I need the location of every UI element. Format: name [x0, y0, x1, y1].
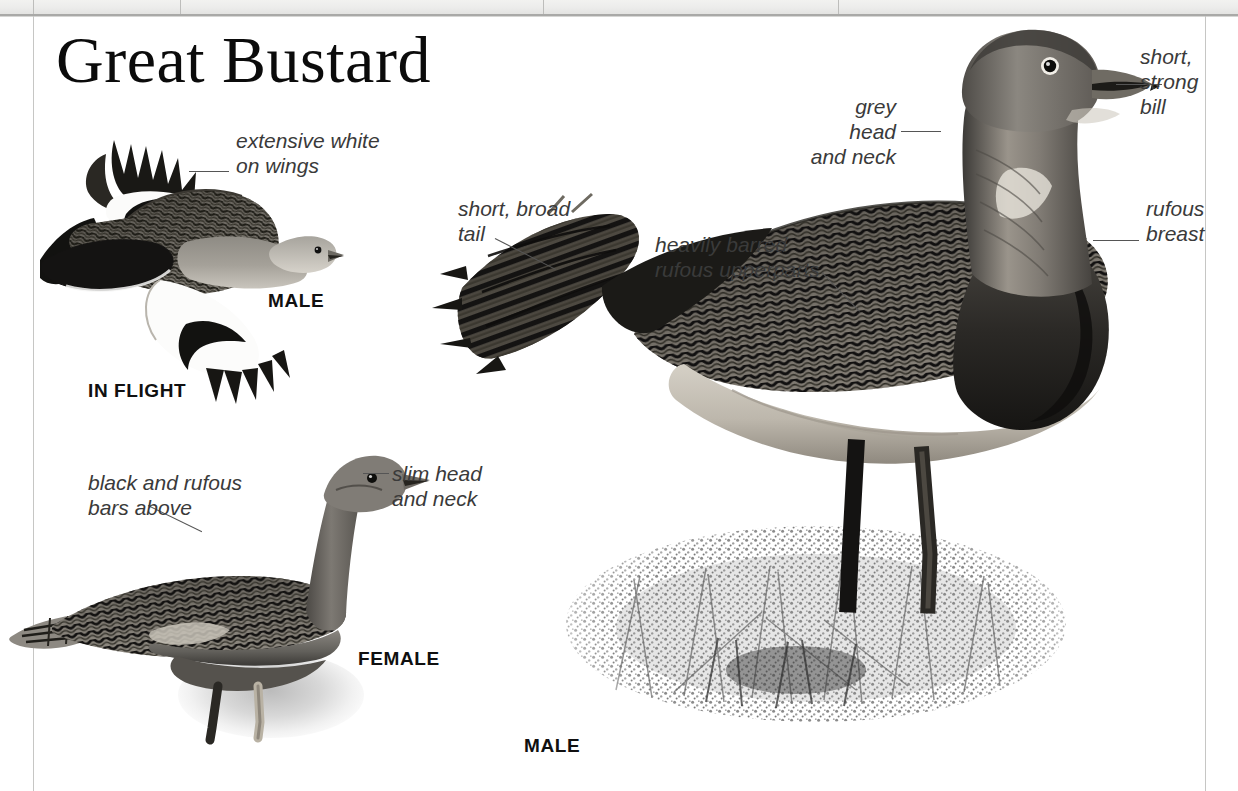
annotation-short-broad-tail: short, broad tail	[458, 196, 570, 246]
annotation-heavily-barred-rufous-upperparts: heavily barred rufous upperparts	[655, 232, 820, 282]
caption-female: FEMALE	[358, 648, 440, 670]
band-divider	[180, 0, 181, 14]
plate-page: Great Bustard	[0, 0, 1238, 791]
annotation-rufous-breast: rufous breast	[1146, 196, 1204, 246]
leader-slim-head-and-neck	[363, 473, 389, 474]
annotation-extensive-white-on-wings: extensive white on wings	[236, 128, 380, 178]
annotation-grey-head-and-neck: grey head and neck	[810, 94, 896, 169]
head-and-bill	[269, 236, 344, 273]
band-divider	[543, 0, 544, 14]
page-top-band	[0, 0, 1238, 14]
leader-extensive-white	[189, 171, 229, 172]
male-head	[962, 30, 1160, 132]
figure-female-standing	[6, 398, 426, 738]
female-legs	[210, 686, 260, 740]
male-legs	[848, 448, 930, 606]
annotation-short-strong-bill: short, strong bill	[1140, 44, 1198, 119]
page-title: Great Bustard	[56, 22, 431, 98]
caption-male-flight: MALE	[268, 290, 324, 312]
leader-grey-head-and-neck	[901, 131, 941, 132]
annotation-black-and-rufous-bars-above: black and rufous bars above	[88, 470, 242, 520]
band-divider	[33, 0, 34, 14]
caption-male-standing: MALE	[524, 735, 580, 757]
page-top-rule-shadow	[0, 16, 1238, 17]
band-divider	[838, 0, 839, 14]
leader-rufous-breast	[1093, 240, 1139, 241]
